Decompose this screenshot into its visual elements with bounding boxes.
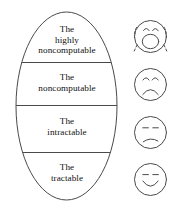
unhappy-face-icon <box>135 117 167 149</box>
band-label-line: The <box>16 72 118 83</box>
band-label-line: The <box>16 162 118 173</box>
band-label-line: intractable <box>16 127 118 138</box>
computability-hierarchy-diagram: The highly noncomputable The noncomputab… <box>0 0 175 210</box>
band-label-highly-noncomputable: The highly noncomputable <box>16 24 118 56</box>
frowning-face-icon <box>135 69 167 101</box>
band-label-intractable: The intractable <box>16 116 118 137</box>
band-label-noncomputable: The noncomputable <box>16 72 118 93</box>
band-label-tractable: The tractable <box>16 162 118 183</box>
band-label-line: The <box>16 116 118 127</box>
smiling-face-icon <box>135 164 167 196</box>
crying-face-icon <box>134 21 167 53</box>
band-label-line: tractable <box>16 173 118 184</box>
band-label-line: The <box>16 24 118 35</box>
band-label-line: highly <box>16 35 118 46</box>
band-label-line: noncomputable <box>16 45 118 56</box>
band-label-line: noncomputable <box>16 83 118 94</box>
